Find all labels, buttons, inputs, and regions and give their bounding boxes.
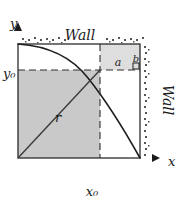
- wall-right-label: Wall: [160, 85, 176, 115]
- geometry-diagram-figure: Wall Wall y x y₀ x₀ r a b: [0, 0, 188, 210]
- radius-label: r: [55, 110, 62, 125]
- y0-tick-label: y₀: [2, 66, 16, 81]
- x-axis-label: x: [168, 154, 176, 169]
- segment-b-label: b: [133, 53, 139, 64]
- diagram-canvas: Wall Wall y x y₀ x₀ r a b: [0, 0, 188, 210]
- segment-a-label: a: [115, 56, 122, 69]
- wall-right-stipple: [144, 46, 150, 156]
- x-axis-arrowhead: [152, 154, 160, 162]
- y-axis-label: y: [9, 16, 18, 31]
- x0-tick-label: x₀: [86, 184, 99, 199]
- wall-top-label: Wall: [65, 27, 95, 43]
